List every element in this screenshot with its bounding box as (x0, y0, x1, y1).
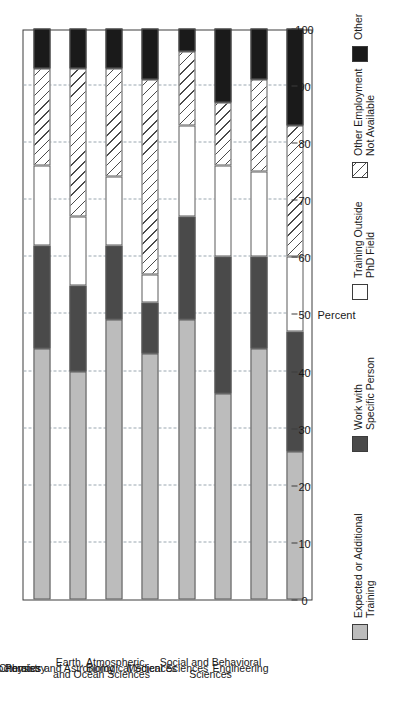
bar-segment-other (286, 28, 303, 125)
bar-row (33, 30, 50, 599)
bar-segment-training (69, 216, 86, 285)
bar-segment-expected (286, 451, 303, 599)
bar-segment-training (33, 165, 50, 245)
bar-segment-other-emp (105, 68, 122, 176)
gridline (23, 370, 311, 371)
bar-segment-other (214, 28, 231, 102)
axis-tick-label: 100 (284, 23, 324, 35)
legend-item[interactable]: Training OutsidePhD Field (352, 201, 376, 300)
axis-tick-label: 60 (284, 251, 324, 263)
bar-segment-workwith (69, 285, 86, 371)
bar-segment-expected (105, 319, 122, 599)
x-axis-title: Percent (51, 309, 411, 321)
bar-segment-other-emp (69, 68, 86, 216)
bar-segment-training (178, 125, 195, 216)
bar-segment-other-emp (33, 68, 50, 165)
axis-tick-label: 90 (284, 80, 324, 92)
chart-root: 0102030405060708090100 Percent All S&E P… (0, 0, 411, 727)
legend-label-line: Other (352, 14, 364, 40)
gridline (23, 484, 311, 485)
axis-tick-label: 10 (284, 537, 324, 549)
legend-label: Other (352, 14, 364, 40)
axis-tick-label: 70 (284, 194, 324, 206)
gridline (23, 198, 311, 199)
bar-segment-workwith (33, 245, 50, 348)
category-label-line: Engineering (180, 661, 300, 673)
legend-label: Expected or AdditionalTraining (352, 514, 376, 619)
bar-segment-other (33, 28, 50, 68)
axis-tick-label: 80 (284, 137, 324, 149)
legend-item[interactable]: Work withSpecific Person (352, 357, 376, 452)
bar-segment-training (141, 274, 158, 303)
legend-swatch-other (352, 46, 368, 62)
legend-label-line: PhD Field (364, 201, 376, 278)
legend-label-line: Not Available (364, 68, 376, 156)
legend-label-line: Specific Person (364, 357, 376, 430)
bar-segment-expected (250, 348, 267, 599)
gridline (23, 541, 311, 542)
bar-segment-other-emp (214, 102, 231, 165)
legend-swatch-workwith (352, 436, 368, 452)
axis-tick-label: 30 (284, 423, 324, 435)
gridline (23, 141, 311, 142)
bar-segment-other-emp (250, 79, 267, 170)
bar-segment-workwith (250, 256, 267, 347)
legend-item[interactable]: Other (352, 14, 368, 62)
axis-tick-label: 0 (284, 594, 324, 606)
legend-label-line: Expected or Additional (352, 514, 364, 619)
bar-segment-workwith (178, 216, 195, 319)
bar-segment-training (250, 171, 267, 257)
legend-swatch-training (352, 284, 368, 300)
bar-segment-expected (141, 353, 158, 599)
gridline (23, 255, 311, 256)
legend-label: Other EmploymentNot Available (352, 68, 376, 156)
bar-segment-other (141, 28, 158, 79)
legend-label-line: Other Employment (352, 68, 364, 156)
legend-label: Work withSpecific Person (352, 357, 376, 430)
bar-segment-expected (178, 319, 195, 599)
category-label: Engineering (180, 661, 300, 673)
bar-segment-expected (33, 348, 50, 599)
rotated-figure: 0102030405060708090100 Percent All S&E P… (0, 0, 411, 727)
bar-segment-other-emp (178, 51, 195, 125)
bar-segment-other-emp (141, 79, 158, 273)
bar-segment-other (105, 28, 122, 68)
bar-segment-workwith (214, 256, 231, 393)
axis-tick-label: 20 (284, 480, 324, 492)
gridline (23, 84, 311, 85)
bar-segment-other (250, 28, 267, 79)
legend-swatch-expected (352, 624, 368, 640)
legend-item[interactable]: Expected or AdditionalTraining (352, 514, 376, 641)
axis-tick-label: 40 (284, 366, 324, 378)
bar-segment-other (178, 28, 195, 51)
bar-segment-training (105, 176, 122, 245)
legend-label-line: Training Outside (352, 201, 364, 278)
bar-segment-other (69, 28, 86, 68)
bar-segment-expected (214, 393, 231, 599)
legend-item[interactable]: Other EmploymentNot Available (352, 68, 376, 178)
legend-label: Training OutsidePhD Field (352, 201, 376, 278)
bar-segment-expected (69, 371, 86, 599)
legend-label-line: Training (364, 514, 376, 619)
bar-segment-training (214, 165, 231, 256)
legend-label-line: Work with (352, 357, 364, 430)
gridline (23, 427, 311, 428)
legend-swatch-other-emp (352, 162, 368, 178)
